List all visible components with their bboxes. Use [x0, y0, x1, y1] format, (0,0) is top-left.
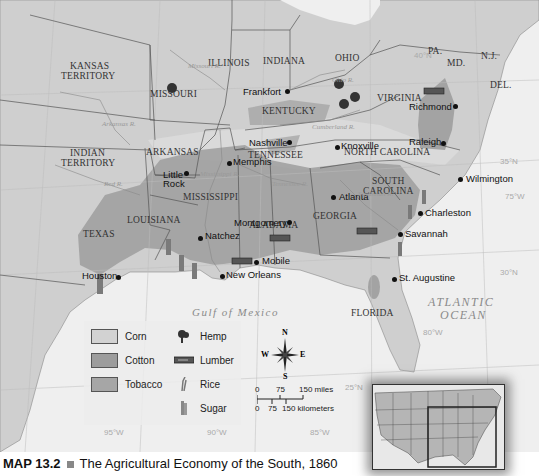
tobacco-swatch [91, 377, 118, 392]
state-label: TERRITORY [61, 71, 115, 81]
scale-km-0: 0 [255, 404, 259, 413]
state-label: N.J. [481, 51, 497, 61]
city-marker-icon [227, 161, 232, 166]
graticule-label: 30°N [500, 268, 518, 277]
city-marker-icon [287, 140, 292, 145]
city-label: Richmond [409, 101, 452, 112]
scale-miles-0: 0 [255, 385, 259, 394]
graticule-label: 75°W [505, 192, 525, 201]
graticule-label: 40°N [414, 51, 432, 60]
scale-miles-75: 75 [276, 385, 285, 394]
city-label: Raleigh [409, 136, 441, 147]
compass-north: N [282, 328, 288, 337]
map-title: The Agricultural Economy of the South, 1… [80, 456, 338, 471]
legend-item-tobacco: Tobacco [91, 377, 162, 392]
city-marker-icon [335, 145, 340, 150]
graticule-label: 80°W [423, 328, 443, 337]
river-label: Arkansas R. [102, 120, 136, 128]
legend-label: Rice [200, 379, 220, 390]
graticule-label: 90°W [207, 428, 227, 437]
city-label: New Orleans [226, 269, 281, 280]
state-label: MISSOURI [150, 89, 197, 99]
state-label: TERRITORY [61, 158, 115, 168]
state-label: LOUISIANA [127, 215, 181, 225]
legend-item-rice: Rice [174, 377, 220, 391]
city-label: Wilmington [466, 173, 513, 184]
legend-label: Cotton [125, 355, 154, 366]
city-label: Montgomery [234, 217, 287, 228]
city-marker-icon [331, 195, 336, 200]
city-label: Nashville [249, 137, 288, 148]
city-marker-icon [398, 232, 403, 237]
river-label: Cumberland R. [312, 123, 355, 131]
compass-east: E [300, 350, 305, 359]
state-label: KANSAS [70, 61, 109, 71]
legend-item-sugar: Sugar [174, 401, 227, 415]
river-label: Red R. [104, 180, 123, 188]
map-caption: MAP 13.2The Agricultural Economy of the … [3, 456, 338, 471]
city-label: Charleston [425, 207, 471, 218]
sugar-icon [174, 401, 194, 415]
compass-south: S [283, 372, 287, 381]
city-label: Houston [82, 270, 117, 281]
scale-km-150: 150 kilometers [282, 404, 334, 413]
state-label: ARKANSAS [146, 147, 199, 157]
city-label: Frankfort [243, 86, 281, 97]
state-label: INDIANA [263, 56, 305, 66]
legend-label: Hemp [200, 331, 227, 342]
compass-west: W [261, 350, 269, 359]
state-label: GEORGIA [313, 211, 357, 221]
inset-us-map [372, 384, 505, 470]
city-label: Savannah [405, 228, 448, 239]
state-label: INDIAN [70, 148, 105, 158]
city-label: Rock [163, 178, 185, 189]
water-body-label: OCEAN [440, 308, 487, 323]
graticule-label: 85°W [310, 428, 330, 437]
legend-label: Sugar [200, 403, 227, 414]
scale-km-75: 75 [268, 404, 277, 413]
state-label: KENTUCKY [262, 106, 316, 116]
city-label: Natchez [205, 230, 240, 241]
cotton-swatch [91, 353, 118, 368]
legend-label: Tobacco [125, 379, 162, 390]
map-legend: Corn Cotton Tobacco Hemp Lumber Rice Sug… [84, 321, 241, 425]
state-label: FLORIDA [351, 308, 394, 318]
river-label: Missouri R. [188, 62, 221, 70]
state-label: DEL. [490, 80, 512, 90]
city-label: Mobile [262, 255, 290, 266]
city-marker-icon [285, 89, 290, 94]
hemp-icon [174, 329, 194, 343]
state-label: MD. [447, 58, 465, 68]
scale-bar: 0 75 150 miles 0 75 150 kilometers [253, 385, 363, 415]
legend-item-hemp: Hemp [174, 329, 227, 343]
state-label: OHIO [335, 53, 360, 63]
lumber-icon [174, 353, 194, 367]
rice-icon [174, 377, 194, 391]
legend-label: Corn [125, 331, 147, 342]
city-marker-icon [392, 277, 397, 282]
legend-item-corn: Corn [91, 329, 147, 344]
city-marker-icon [220, 274, 225, 279]
water-body-label: Gulf of Mexico [192, 306, 279, 318]
city-label: Knoxville [341, 140, 379, 151]
river-label: Tennessee R. [272, 180, 308, 188]
city-marker-icon [198, 236, 203, 241]
city-marker-icon [418, 211, 423, 216]
city-marker-icon [184, 171, 189, 176]
scale-miles-150: 150 miles [299, 385, 333, 394]
city-marker-icon [441, 141, 446, 146]
city-marker-icon [458, 177, 463, 182]
city-marker-icon [453, 104, 458, 109]
city-marker-icon [287, 220, 292, 225]
legend-item-cotton: Cotton [91, 353, 154, 368]
graticule-label: 35°N [500, 157, 518, 166]
us-outline-icon [373, 385, 504, 469]
city-label: St. Augustine [399, 272, 455, 283]
caption-bullet-icon [67, 461, 74, 468]
map-number: MAP 13.2 [3, 456, 61, 471]
state-label: TEXAS [83, 229, 115, 239]
legend-item-lumber: Lumber [174, 353, 234, 367]
river-label: Savannah R. [358, 190, 393, 198]
river-label: Mississippi R. [200, 170, 239, 178]
compass-rose: N S E W [263, 330, 307, 380]
